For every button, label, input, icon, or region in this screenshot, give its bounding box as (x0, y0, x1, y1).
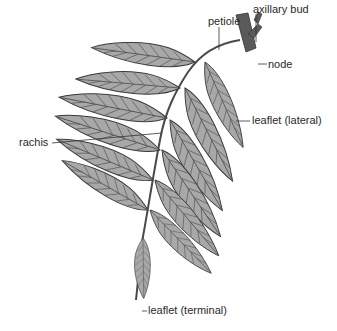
compound-leaf-diagram: petiole axillary bud node leaflet (later… (0, 0, 337, 331)
label-leaflet-terminal: leaflet (terminal) (148, 305, 227, 316)
label-rachis: rachis (19, 137, 48, 148)
label-petiole: petiole (208, 16, 240, 27)
label-axillary-bud: axillary bud (253, 4, 309, 15)
label-leaflet-lateral: leaflet (lateral) (252, 115, 322, 126)
compound-leaf-illustration (0, 0, 337, 331)
label-node: node (268, 59, 292, 70)
terminal-leaflet (133, 238, 151, 299)
